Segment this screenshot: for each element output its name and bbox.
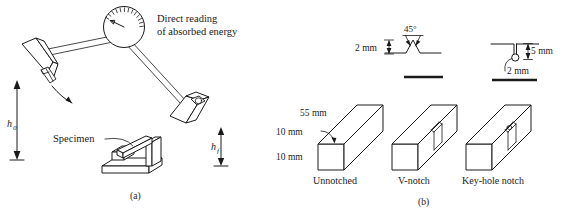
h0-dimension: [10, 80, 24, 160]
specimen-anvil-assembly: [102, 136, 162, 173]
specimen-bar-unnotched: [318, 105, 383, 170]
panel-b-specimens: 45° 2 mm 5 mm 2 mm: [276, 24, 554, 208]
hf-sublabel: f: [217, 147, 220, 155]
h0-label: h: [7, 118, 12, 129]
charpy-figure: h 0 h f: [0, 0, 573, 216]
keyhole-depth-label: 5 mm: [531, 46, 554, 56]
figure-root: h 0 h f: [0, 0, 573, 216]
v-notch-caption: V-notch: [398, 175, 430, 186]
h0-sublabel: 0: [13, 124, 17, 132]
panel-b-caption: (b): [418, 197, 429, 208]
keyhole-caption: Key-hole notch: [462, 175, 524, 186]
hf-label: h: [211, 141, 216, 152]
specimen-label: Specimen: [53, 133, 95, 144]
swing-direction-arrow: [52, 86, 72, 103]
dial-caption-line1: Direct reading: [157, 13, 218, 24]
pendulum-arm-left: [48, 36, 113, 55]
unnotched-length-label: 55 mm: [300, 108, 327, 118]
absorbed-energy-dial: [104, 7, 145, 48]
panel-a-caption: (a): [130, 191, 141, 202]
specimen-bar-keyhole-notch: [466, 105, 531, 170]
specimen-bar-v-notch: [392, 105, 457, 170]
v-notch-depth-label: 2 mm: [355, 43, 378, 53]
unnotched-caption: Unnotched: [313, 175, 357, 186]
panel-a-apparatus: h 0 h f: [7, 7, 238, 203]
keyhole-diameter-label: 2 mm: [507, 66, 530, 76]
unnotched-height-label: 10 mm: [276, 152, 303, 162]
v-notch-angle-label: 45°: [404, 24, 417, 34]
unnotched-width-label: 10 mm: [276, 127, 303, 137]
dial-caption-line2: of absorbed energy: [157, 26, 238, 37]
hammer-head-raised: [22, 38, 58, 83]
pendulum-arm-right: [126, 41, 186, 104]
v-notch-detail: [385, 36, 442, 55]
hammer-head-final: [170, 92, 209, 123]
